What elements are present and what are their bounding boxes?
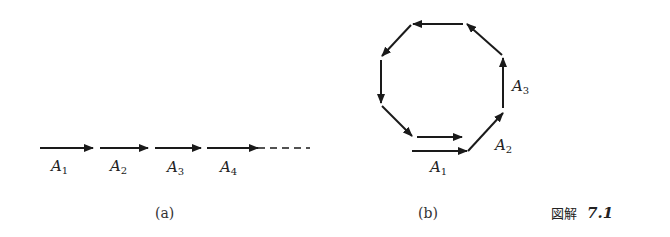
label-b3: A3 [510,77,529,96]
label-b2: A2 [493,136,512,155]
figure-canvas: A1 A2 A3 A4 (a) A1 A2 A3 (b) 図解 7.1 [0,0,670,237]
figure-label-number: 7.1 [587,204,613,222]
panel-b: A1 A2 A3 (b) [381,24,529,221]
figure-label-prefix: 図解 [551,206,577,221]
label-a3: A3 [165,158,184,177]
caption-b: (b) [418,205,438,221]
label-b1: A1 [428,158,447,177]
caption-a: (a) [155,205,174,221]
label-a1: A1 [49,157,68,176]
label-a4: A4 [218,158,237,177]
octagon-arrow-6 [382,25,411,56]
panel-a: A1 A2 A3 A4 (a) [40,148,310,221]
octagon-arrow-4 [467,24,502,55]
figure-label: 図解 7.1 [551,204,613,222]
label-a2: A2 [108,157,127,176]
octagon-arrow-8 [382,106,412,136]
